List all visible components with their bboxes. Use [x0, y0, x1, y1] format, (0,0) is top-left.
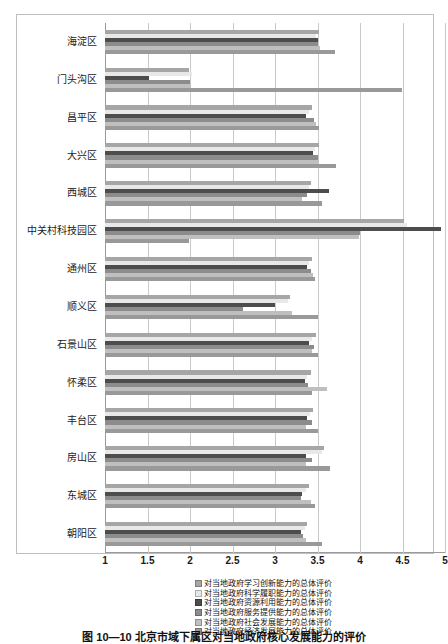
- value-tick-label: 1.5: [141, 555, 155, 566]
- legend-item: 对当地政府学习创新能力的总体评价: [195, 579, 425, 589]
- value-tick-label: 3.5: [311, 555, 325, 566]
- bar-group: [105, 257, 445, 281]
- value-tick-label: 4: [357, 555, 363, 566]
- gridline: [360, 23, 361, 553]
- category-label: 顺义区: [67, 301, 97, 312]
- bar-group: [105, 219, 445, 243]
- legend-swatch-icon: [195, 590, 202, 597]
- plot-area: [105, 23, 445, 553]
- bar-group: [105, 30, 445, 54]
- bar: [105, 504, 315, 508]
- legend-item: 对当地政府资源利用能力的总体评价: [195, 598, 425, 608]
- value-tick-label: 1: [102, 555, 108, 566]
- bar-group: [105, 105, 445, 129]
- category-label: 西城区: [67, 187, 97, 198]
- legend-label: 对当地政府科学履职能力的总体评价: [204, 589, 332, 598]
- category-label: 门头沟区: [57, 74, 97, 85]
- category-label: 丰台区: [67, 415, 97, 426]
- bar-group: [105, 484, 445, 508]
- bar: [105, 353, 318, 357]
- legend-swatch-icon: [195, 619, 202, 626]
- category-label: 朝阳区: [67, 528, 97, 539]
- gridline: [445, 23, 446, 553]
- gridline: [233, 23, 234, 553]
- legend-item: 对当地政府科学履职能力的总体评价: [195, 589, 425, 599]
- figure-caption: 图 10—10 北京市域下属区对当地政府核心发展能力的评价: [0, 628, 448, 644]
- legend-swatch-icon: [195, 609, 202, 616]
- category-label: 东城区: [67, 490, 97, 501]
- category-label: 房山区: [67, 452, 97, 463]
- bar: [105, 201, 322, 205]
- legend-label: 对当地政府学习创新能力的总体评价: [204, 579, 332, 588]
- bar: [105, 429, 318, 433]
- bar-group: [105, 68, 445, 92]
- bar-group: [105, 446, 445, 470]
- category-label: 怀柔区: [67, 377, 97, 388]
- legend-label: 对当地政府资源利用能力的总体评价: [204, 598, 332, 607]
- value-tick-label: 5: [442, 555, 448, 566]
- bar-group: [105, 408, 445, 432]
- value-tick-label: 4.5: [396, 555, 410, 566]
- gridline: [148, 23, 149, 553]
- value-tick-label: 2.5: [226, 555, 240, 566]
- bar-group: [105, 333, 445, 357]
- legend-swatch-icon: [195, 580, 202, 587]
- legend-label: 对当地政府服务提供能力的总体评价: [204, 608, 332, 617]
- legend-swatch-icon: [195, 599, 202, 606]
- value-axis-line: [105, 23, 106, 553]
- category-label: 昌平区: [67, 112, 97, 123]
- category-label: 海淀区: [67, 36, 97, 47]
- bar: [105, 542, 322, 546]
- bar: [105, 164, 336, 168]
- category-label: 中关村科技园区: [27, 225, 97, 236]
- category-axis-labels: 海淀区门头沟区昌平区大兴区西城区中关村科技园区通州区顺义区石景山区怀柔区丰台区房…: [17, 23, 103, 553]
- gridline: [275, 23, 276, 553]
- bar-group: [105, 522, 445, 546]
- legend-label: 对当地政府社会发展能力的总体评价: [204, 618, 332, 627]
- value-axis-tick-labels: 11.522.533.544.55: [105, 555, 445, 571]
- plot-inner: [105, 23, 445, 553]
- bar: [105, 88, 402, 92]
- value-tick-label: 2: [187, 555, 193, 566]
- value-tick-label: 3: [272, 555, 278, 566]
- bar: [105, 391, 312, 395]
- category-label: 石景山区: [57, 339, 97, 350]
- category-label: 大兴区: [67, 150, 97, 161]
- gridline: [403, 23, 404, 553]
- bar-group: [105, 295, 445, 319]
- bar-group: [105, 143, 445, 167]
- category-label: 通州区: [67, 263, 97, 274]
- gridline: [190, 23, 191, 553]
- chart-frame: 海淀区门头沟区昌平区大兴区西城区中关村科技园区通州区顺义区石景山区怀柔区丰台区房…: [16, 14, 434, 554]
- gridline: [318, 23, 319, 553]
- legend-item: 对当地政府服务提供能力的总体评价: [195, 608, 425, 618]
- bar: [105, 126, 319, 130]
- bar: [105, 277, 315, 281]
- bar: [105, 466, 330, 470]
- bar-group: [105, 181, 445, 205]
- bar: [105, 315, 318, 319]
- bar-group: [105, 370, 445, 394]
- bar: [105, 50, 335, 54]
- legend-item: 对当地政府社会发展能力的总体评价: [195, 617, 425, 627]
- bar: [105, 239, 189, 243]
